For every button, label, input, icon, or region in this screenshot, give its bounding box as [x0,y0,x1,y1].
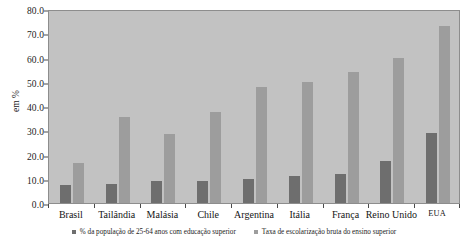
y-axis-title: em % [11,71,21,131]
x-axis-label: EUA [428,209,446,218]
x-axis-label: Malásia [147,209,179,220]
x-axis-tick-mark [414,204,415,208]
bars-layer [49,11,459,203]
x-axis-tick-mark [459,204,460,208]
x-axis-tick-mark [48,204,49,208]
x-axis-tick-mark [94,204,95,208]
chart-legend: % da população de 25-64 anos com educaçã… [0,228,468,236]
y-axis-tick-label: 30.0 [27,127,44,137]
y-axis: 0.010.020.030.040.050.060.070.080.0 [0,10,48,205]
plot-area [48,10,460,204]
legend-label: Taxa de escolarização bruta do ensino su… [262,228,396,236]
x-axis-label: Itália [289,209,310,220]
legend-item: Taxa de escolarização bruta do ensino su… [254,228,396,236]
x-axis-tick-mark [368,204,369,208]
y-axis-tick-label: 80.0 [27,6,44,16]
chart-container: 0.010.020.030.040.050.060.070.080.0 em %… [0,0,468,246]
y-axis-tick-label: 40.0 [27,103,44,113]
legend-label: % da população de 25-64 anos com educaçã… [80,228,236,236]
x-axis-label: Tailândia [98,209,135,220]
y-axis-tick-label: 0.0 [32,200,44,210]
x-axis-tick-mark [277,204,278,208]
x-axis: BrasilTailândiaMalásiaChileArgentinaItál… [48,204,460,226]
bar-group [49,11,461,203]
y-axis-tick-label: 20.0 [27,152,44,162]
x-axis-label: Brasil [59,209,83,220]
bar [426,133,437,203]
y-axis-tick-label: 70.0 [27,30,44,40]
y-axis-tick-label: 10.0 [27,176,44,186]
x-axis-tick-mark [140,204,141,208]
bar [439,26,450,203]
x-axis-label: França [332,209,359,220]
x-axis-tick-mark [185,204,186,208]
legend-swatch-icon [72,230,76,234]
x-axis-label: Chile [197,209,219,220]
y-axis-tick-label: 60.0 [27,55,44,65]
legend-swatch-icon [254,230,258,234]
legend-item: % da população de 25-64 anos com educaçã… [72,228,236,236]
x-axis-label: Argentina [234,209,274,220]
x-axis-tick-mark [231,204,232,208]
x-axis-tick-mark [323,204,324,208]
y-axis-tick-label: 50.0 [27,79,44,89]
x-axis-label: Reino Unido [366,209,417,220]
